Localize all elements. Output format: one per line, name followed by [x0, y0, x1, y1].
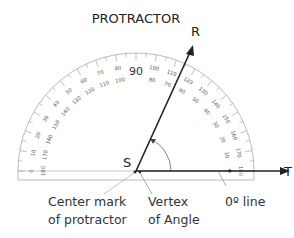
callout-zero-line: 0º line [225, 194, 266, 209]
svg-text:0: 0 [28, 169, 34, 172]
arrow-R-icon [186, 45, 194, 56]
svg-text:180: 180 [40, 166, 46, 176]
point-T-label: T [283, 164, 292, 179]
svg-text:80: 80 [148, 76, 156, 83]
diagram-title: PROTRACTOR [92, 11, 181, 26]
callout-center-mark-line1: Center mark [48, 194, 127, 209]
point-S-label: S [123, 155, 131, 170]
protractor-diagram: PROTRACTOR 01801017020160301504014050130… [0, 0, 294, 238]
callout-vertex-line1: Vertex [148, 194, 188, 209]
svg-text:10: 10 [224, 151, 231, 159]
callout-center-mark-line2: of protractor [48, 212, 128, 227]
callout-vertex-line2: of Angle [148, 212, 200, 227]
svg-text:90: 90 [129, 65, 143, 78]
svg-text:80: 80 [114, 64, 122, 71]
svg-text:10: 10 [29, 149, 36, 157]
protractor: 0180101702016030150401405013060120701108… [18, 53, 254, 180]
point-R-label: R [191, 24, 200, 39]
